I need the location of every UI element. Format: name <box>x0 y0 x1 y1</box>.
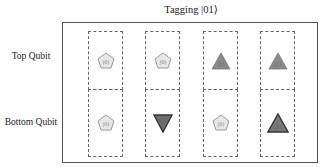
svg-text:|0⟩: |0⟩ <box>217 121 224 128</box>
row-label-top-qubit: Top Qubit <box>0 51 62 61</box>
svg-text:|0⟩: |0⟩ <box>159 59 166 66</box>
triangle-up-icon: |1⟩ <box>210 50 232 72</box>
row-label-bottom-qubit: Bottom Qubit <box>0 117 62 127</box>
pentagon-icon: |0⟩ <box>210 112 232 134</box>
cell-bottom-2: |1⟩ <box>145 89 180 157</box>
cell-bottom-3: |0⟩ <box>203 89 238 157</box>
svg-text:|1⟩: |1⟩ <box>274 61 281 68</box>
svg-text:|1⟩: |1⟩ <box>274 124 281 131</box>
pentagon-icon: |0⟩ <box>95 112 117 134</box>
triangle-up-icon: |1⟩ <box>267 112 289 134</box>
svg-text:|1⟩: |1⟩ <box>159 117 166 124</box>
svg-text:|0⟩: |0⟩ <box>102 59 109 66</box>
triangle-up-icon: |1⟩ <box>267 50 289 72</box>
cell-top-1: |0⟩ <box>88 31 123 90</box>
cell-top-4: |1⟩ <box>260 31 295 90</box>
svg-text:|1⟩: |1⟩ <box>217 61 224 68</box>
cell-top-2: |0⟩ <box>145 31 180 90</box>
pentagon-icon: |0⟩ <box>152 50 174 72</box>
cell-bottom-4: |1⟩ <box>260 89 295 157</box>
pentagon-icon: |0⟩ <box>95 50 117 72</box>
svg-text:|0⟩: |0⟩ <box>102 121 109 128</box>
triangle-down-icon: |1⟩ <box>152 112 174 134</box>
diagram-title: Tagging |01⟩ <box>62 3 320 15</box>
cell-bottom-1: |0⟩ <box>88 89 123 157</box>
cell-top-3: |1⟩ <box>203 31 238 90</box>
